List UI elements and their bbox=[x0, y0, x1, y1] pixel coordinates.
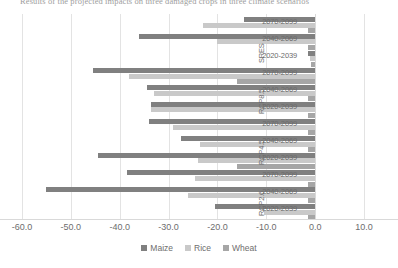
period-label-sres-2040-2069: 2040-2069 bbox=[262, 35, 297, 43]
chart-bars bbox=[0, 14, 398, 219]
bar-wheat-sres-2040-2069 bbox=[308, 45, 315, 50]
bar-rice-sres-2020-2039 bbox=[310, 56, 315, 61]
bar-wheat-rcp2_6-2040-2069 bbox=[308, 198, 315, 203]
chart-legend: MaizeRiceWheat bbox=[0, 243, 398, 253]
x-axis-line bbox=[0, 219, 398, 220]
group-label-rcp2_6: RCP2.6 bbox=[257, 191, 266, 216]
period-label-rcp4_5-2040-2069: 2040-2069 bbox=[262, 137, 297, 145]
bar-wheat-rcp4_5-2020-2039 bbox=[237, 164, 315, 169]
x-tick-label-neg40_0: -40.0 bbox=[109, 222, 130, 232]
legend-item-rice[interactable]: Rice bbox=[185, 243, 211, 253]
legend-swatch-maize-icon bbox=[141, 245, 147, 251]
period-label-sres-2020-2039: 2020-2039 bbox=[262, 52, 297, 60]
bar-wheat-sres-2070-2099 bbox=[308, 28, 315, 33]
period-label-rcp8_5-2070-2099: 2070-2099 bbox=[262, 69, 297, 77]
bar-wheat-rcp8_5-2020-2039 bbox=[308, 113, 315, 118]
period-label-rcp2_6-2070-2099: 2070-2099 bbox=[262, 171, 297, 179]
group-label-rcp4_5: RCP4.5 bbox=[257, 140, 266, 165]
legend-label-maize: Maize bbox=[150, 243, 173, 253]
bar-wheat-rcp8_5-2070-2099 bbox=[237, 79, 315, 84]
x-tick-label-10_0: 10.0 bbox=[355, 222, 373, 232]
bar-maize-sres-2020-2039 bbox=[308, 51, 315, 56]
period-label-rcp4_5-2020-2039: 2020-2039 bbox=[262, 154, 297, 162]
bar-wheat-rcp4_5-2040-2069 bbox=[308, 147, 315, 152]
legend-swatch-rice-icon bbox=[185, 245, 191, 251]
period-label-rcp2_6-2020-2039: 2020-2039 bbox=[262, 205, 297, 213]
period-label-rcp4_5-2070-2099: 2070-2099 bbox=[262, 120, 297, 128]
period-label-rcp8_5-2020-2039: 2020-2039 bbox=[262, 103, 297, 111]
legend-label-wheat: Wheat bbox=[232, 243, 257, 253]
x-tick-label-neg30_0: -30.0 bbox=[158, 222, 179, 232]
period-label-rcp2_6-2040-2069: 2040-2069 bbox=[262, 188, 297, 196]
chart-plot-area: 2070-20992040-20692020-20392070-20992040… bbox=[0, 14, 398, 219]
x-tick-label-neg20_0: -20.0 bbox=[207, 222, 228, 232]
bar-wheat-rcp4_5-2070-2099 bbox=[308, 130, 315, 135]
x-tick-label-neg60_0: -60.0 bbox=[12, 222, 33, 232]
legend-swatch-wheat-icon bbox=[223, 245, 229, 251]
legend-item-maize[interactable]: Maize bbox=[141, 243, 173, 253]
figure-caption: Results of the projected impacts on thre… bbox=[20, 0, 382, 8]
period-label-sres-2070-2099: 2070-2099 bbox=[262, 18, 297, 26]
bar-wheat-rcp8_5-2040-2069 bbox=[308, 96, 315, 101]
period-label-rcp8_5-2040-2069: 2040-2069 bbox=[262, 86, 297, 94]
group-label-rcp8_5: RCP8.5 bbox=[257, 89, 266, 114]
bar-wheat-rcp2_6-2070-2099 bbox=[308, 182, 315, 187]
x-tick-label-neg50_0: -50.0 bbox=[61, 222, 82, 232]
bar-rice-rcp2_6-2070-2099 bbox=[195, 176, 315, 181]
x-tick-label-0_0: 0.0 bbox=[309, 222, 322, 232]
bar-wheat-sres-2020-2039 bbox=[311, 62, 315, 67]
x-tick-label-neg10_0: -10.0 bbox=[256, 222, 277, 232]
group-label-sres: SRES bbox=[257, 43, 266, 63]
x-axis-tick-labels: -60.0-50.0-40.0-30.0-20.0-10.00.010.0 bbox=[0, 222, 398, 236]
legend-label-rice: Rice bbox=[194, 243, 211, 253]
bar-rice-sres-2070-2099 bbox=[203, 23, 315, 28]
legend-item-wheat[interactable]: Wheat bbox=[223, 243, 257, 253]
